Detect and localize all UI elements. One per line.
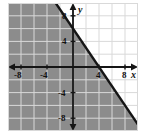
graph-canvas bbox=[8, 3, 138, 131]
y-tick-label-neg8: -8 bbox=[58, 114, 66, 123]
y-tick-label-4: 4 bbox=[62, 37, 67, 46]
y-axis-label: y bbox=[78, 5, 82, 15]
y-tick-label-neg4: -4 bbox=[58, 89, 66, 98]
y-tick-label-8: 8 bbox=[62, 12, 67, 21]
x-tick-label-neg8: -8 bbox=[14, 71, 22, 80]
plot-area: -8 -4 4 8 8 4 -4 -8 y x bbox=[8, 3, 138, 131]
x-axis-label: x bbox=[131, 70, 136, 80]
linear-inequality-graph: -8 -4 4 8 8 4 -4 -8 y x bbox=[0, 0, 150, 136]
x-tick-label-neg4: -4 bbox=[40, 71, 48, 80]
x-tick-label-8: 8 bbox=[122, 71, 127, 80]
x-tick-label-4: 4 bbox=[96, 71, 101, 80]
